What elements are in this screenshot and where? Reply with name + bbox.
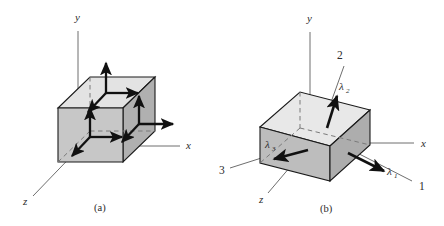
lambda-1-arrow <box>348 153 384 171</box>
principal-axis-label-1: 1 <box>419 180 425 192</box>
lambda-2-label: λ 2 <box>338 80 350 95</box>
lambda-2-subscript: 2 <box>346 87 350 95</box>
figure-root: y x z (a) <box>0 0 444 226</box>
panel-b: y x z 1 2 3 λ 1 λ 2 λ 3 (b) <box>0 0 444 226</box>
axis-label-y-b: y <box>306 12 312 24</box>
lambda-3-symbol: λ <box>264 138 270 150</box>
lambda-2-symbol: λ <box>338 80 344 92</box>
rotated-element-b <box>260 92 370 181</box>
lambda-1-symbol: λ <box>386 165 392 177</box>
axis-label-x-b: x <box>420 137 426 149</box>
caption-b: (b) <box>320 203 333 215</box>
lambda-1-label: λ 1 <box>386 165 398 180</box>
axis-label-z-b: z <box>258 193 264 205</box>
principal-axis-label-2: 2 <box>337 49 343 61</box>
lambda-1-subscript: 1 <box>394 172 398 180</box>
lambda-3-subscript: 3 <box>271 145 276 153</box>
principal-axis-label-3: 3 <box>219 164 225 176</box>
